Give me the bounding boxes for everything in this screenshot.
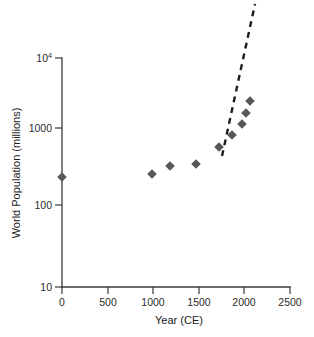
data-point-year-2000: [245, 96, 255, 106]
trend-line-dashed: [222, 4, 255, 156]
data-point-year-0: [57, 172, 67, 182]
y-tick-label-10: 10: [40, 281, 52, 293]
chart-canvas: 104 1000 100 10 0 500 1000 1500 2000 250…: [0, 0, 314, 337]
data-points-group: [57, 96, 255, 182]
y-tick-label-100: 100: [34, 199, 52, 211]
x-tick-label-1000: 1000: [141, 296, 165, 308]
data-point-year-1875: [227, 130, 237, 140]
x-tick-label-500: 500: [99, 296, 117, 308]
trend-line-group: [222, 4, 255, 156]
x-axis-title: Year (CE): [155, 314, 203, 326]
y-axis-title: World Population (millions): [10, 108, 22, 239]
y-tick-label-10000-base: 10: [36, 52, 48, 64]
y-tick-label-1000: 1000: [29, 122, 53, 134]
x-tick-label-2500: 2500: [278, 296, 302, 308]
data-point-year-1975: [241, 108, 251, 118]
x-tick-label-0: 0: [59, 296, 65, 308]
y-tick-label-10000: 104: [36, 51, 52, 65]
population-chart: 104 1000 100 10 0 500 1000 1500 2000 250…: [0, 0, 314, 337]
data-point-year-1500: [191, 159, 201, 169]
data-point-year-1950: [237, 119, 247, 129]
data-point-year-1200: [165, 161, 175, 171]
x-tick-label-2000: 2000: [232, 296, 256, 308]
data-point-year-1000: [147, 169, 157, 179]
x-tick-label-1500: 1500: [187, 296, 211, 308]
y-tick-label-10000-exponent: 4: [48, 51, 52, 60]
